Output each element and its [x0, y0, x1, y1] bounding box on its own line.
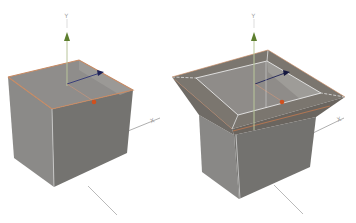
z-axis-handle-icon [92, 100, 97, 105]
box-open-top[interactable]: X Y [8, 12, 160, 215]
x-axis-label: X [336, 115, 342, 123]
3d-viewport[interactable]: X Y [0, 0, 356, 223]
x-world-axis-line [128, 118, 160, 131]
y-axis-label: Y [251, 12, 256, 19]
z-axis-handle-icon [280, 100, 285, 105]
y-axis-arrow-icon [64, 32, 70, 41]
y-axis-label: Y [64, 12, 69, 19]
box-extruded-rim[interactable]: X Y [172, 12, 345, 214]
x-axis-label: X [149, 116, 155, 124]
ground-axis-line [274, 185, 303, 214]
ground-axis-line [88, 186, 117, 215]
y-axis-arrow-icon [251, 32, 257, 41]
